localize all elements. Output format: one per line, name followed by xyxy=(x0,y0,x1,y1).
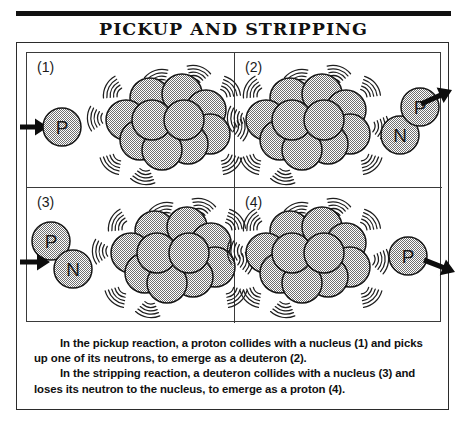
panel-grid: (1) (2) (3) (4) xyxy=(26,52,441,322)
caption-paragraph-2: In the stripping reaction, a deuteron co… xyxy=(34,366,432,396)
panel-3-number: (3) xyxy=(37,194,54,210)
figure-caption: In the pickup reaction, a proton collide… xyxy=(34,336,432,397)
panel-1-number: (1) xyxy=(37,59,54,75)
panel-2: (2) xyxy=(235,53,442,188)
panel-3: (3) xyxy=(27,188,234,323)
panel-4-number: (4) xyxy=(245,194,262,210)
panel-2-number: (2) xyxy=(245,59,262,75)
caption-paragraph-1: In the pickup reaction, a proton collide… xyxy=(34,336,432,366)
panel-4: (4) xyxy=(235,188,442,323)
panel-1: (1) xyxy=(27,53,234,188)
title-top-rule xyxy=(16,11,451,16)
pickup-and-stripping-figure: PICKUP AND STRIPPING (1) (2) (3) (4) PNP… xyxy=(0,0,467,425)
figure-title: PICKUP AND STRIPPING xyxy=(16,18,451,40)
